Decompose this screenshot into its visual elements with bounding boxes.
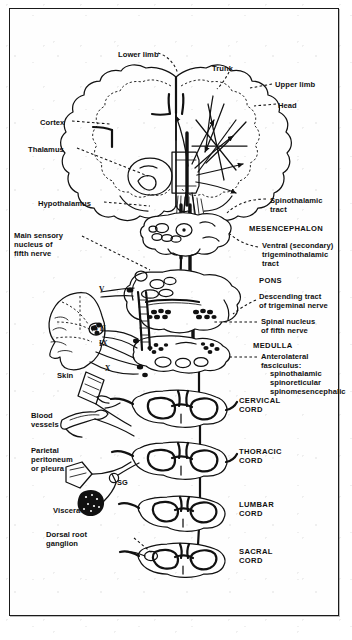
structure-label-thalamus: Thalamus xyxy=(28,145,64,154)
structure-label-dorsal-root-ganglion: Dorsal root ganglion xyxy=(46,530,87,548)
structure-label-cervical-cord: CERVICAL CORD xyxy=(239,396,280,414)
structure-label-hypothalamus: Hypothalamus xyxy=(38,199,91,208)
cerebrum-group xyxy=(61,65,292,228)
structure-label-sacral-cord: SACRAL CORD xyxy=(239,547,273,565)
cranial-nerve-label-cn-ix: IX xyxy=(99,339,108,348)
structure-label-pons: PONS xyxy=(259,276,282,285)
structure-label-mesencephalon: MESENCEPHALON xyxy=(249,224,323,233)
structure-label-blood-vessels: Blood vessels xyxy=(31,411,59,429)
structure-label-anterolateral-fasciculus: Anterolateral fasciculus: xyxy=(261,352,309,370)
structure-label-anterolateral-subtracts: spinothalamic spinoreticular spinomesenc… xyxy=(270,369,346,397)
cortex-map-label-head: Head xyxy=(278,101,297,110)
structure-label-parietal-peritoneum: Parietal peritoneum or pleura xyxy=(31,446,73,474)
cranial-nerve-label-cn-v: V xyxy=(99,285,105,294)
lumbar-cord-section xyxy=(119,496,225,531)
structure-label-viscera: Viscera xyxy=(53,506,80,515)
structure-label-skin: Skin xyxy=(57,371,73,380)
cranial-nerve-label-cn-x: X xyxy=(105,364,111,373)
cortex-map-label-trunk: Trunk xyxy=(212,64,233,73)
thoracic-cord-section xyxy=(112,442,237,479)
structure-label-descending-tract-trigeminal: Descending tract of trigeminal nerve xyxy=(259,292,328,310)
blood-vessels-receptor xyxy=(61,410,134,437)
structure-label-thoracic-cord: THORACIC CORD xyxy=(239,447,282,465)
cranial-nerve-label-cn-vii: VII xyxy=(94,324,106,333)
structure-label-spinal-nucleus-fifth: Spinal nucleus of fifth nerve xyxy=(261,317,315,335)
structure-label-medulla: MEDULLA xyxy=(253,341,293,350)
structure-label-lumbar-cord: LUMBAR CORD xyxy=(239,500,274,518)
cervical-cord-section xyxy=(97,390,237,427)
structure-label-spinothalamic-tract: Spinothalamic tract xyxy=(270,196,323,214)
mesencephalon-section xyxy=(140,213,231,256)
structure-label-main-sensory-nucleus: Main sensory nucleus of fifth nerve xyxy=(14,231,63,259)
medulla-section xyxy=(133,336,230,373)
structure-label-ventral-trigeminothalamic: Ventral (secondary) trigeminothalamic tr… xyxy=(262,241,333,269)
cortex-map-label-upper-limb: Upper limb xyxy=(275,80,315,89)
annotation-label-sympathetic-ganglion: SG xyxy=(117,478,128,487)
diagram-page: .ln{fill:none;stroke:#111;stroke-width:1… xyxy=(0,0,352,640)
viscera-receptor xyxy=(78,463,139,516)
cortex-map-label-lower-limb: Lower limb xyxy=(118,50,159,59)
structure-label-cortex: Cortex xyxy=(40,118,64,127)
sacral-cord-section xyxy=(120,543,225,577)
